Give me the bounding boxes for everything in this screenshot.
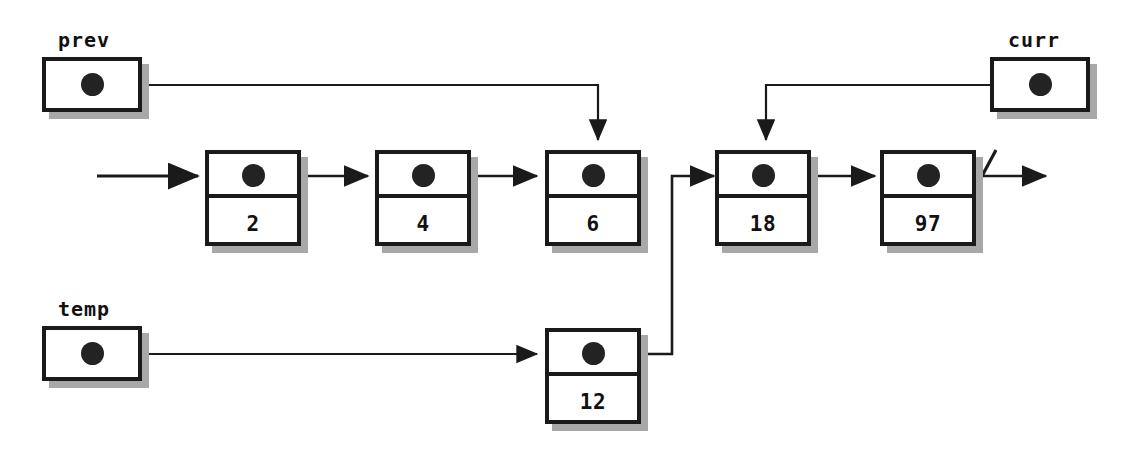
node-2-value: 2 <box>209 202 297 246</box>
node-97-value: 97 <box>884 202 972 246</box>
node-12-value: 12 <box>549 380 637 424</box>
pointer-label-curr: curr <box>1008 28 1060 52</box>
node-97-next-dot <box>917 164 940 187</box>
pointer-box-curr[interactable] <box>990 57 1090 112</box>
pointer-wire-prev <box>138 85 598 140</box>
node-4-pointer-cell <box>379 154 467 198</box>
list-node-12[interactable]: 12 <box>545 328 641 424</box>
list-node-4[interactable]: 4 <box>375 150 471 246</box>
node-6-pointer-cell <box>549 154 637 198</box>
linked-list-diagram: prev curr temp 2 4 6 18 <box>0 0 1135 463</box>
pointer-dot-curr <box>1029 73 1052 96</box>
node-97-pointer-cell <box>884 154 972 198</box>
list-node-2[interactable]: 2 <box>205 150 301 246</box>
pointer-label-prev: prev <box>58 28 110 52</box>
node-2-next-dot <box>242 164 265 187</box>
node-12-pointer-cell <box>549 332 637 376</box>
list-node-18[interactable]: 18 <box>715 150 811 246</box>
pointer-label-temp: temp <box>58 297 110 321</box>
node-2-pointer-cell <box>209 154 297 198</box>
node-6-next-dot <box>582 164 605 187</box>
node-4-next-dot <box>412 164 435 187</box>
node-6-value: 6 <box>549 202 637 246</box>
pointer-dot-prev <box>81 73 104 96</box>
pointer-box-prev[interactable] <box>42 57 142 112</box>
pointer-box-temp[interactable] <box>42 326 142 381</box>
node-18-value: 18 <box>719 202 807 246</box>
node-18-pointer-cell <box>719 154 807 198</box>
list-node-97[interactable]: 97 <box>880 150 976 246</box>
node-18-next-dot <box>752 164 775 187</box>
node-12-next-dot <box>582 342 605 365</box>
node-4-value: 4 <box>379 202 467 246</box>
list-node-6[interactable]: 6 <box>545 150 641 246</box>
pointer-wire-curr <box>766 85 992 140</box>
pointer-dot-temp <box>81 342 104 365</box>
